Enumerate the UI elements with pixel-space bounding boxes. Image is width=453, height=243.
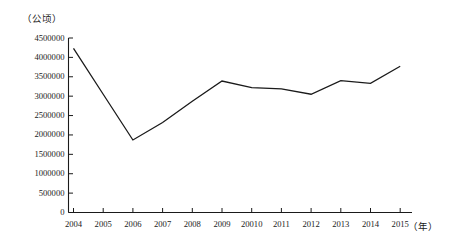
y-axis-tick-label: 3000000 <box>11 91 65 101</box>
line-chart: （公顷） 05000001000000150000020000002500000… <box>0 0 453 243</box>
y-axis-tick-label: 0 <box>11 207 65 217</box>
y-axis-tick-label: 2500000 <box>11 110 65 120</box>
x-axis-unit-label: （年） <box>408 219 438 233</box>
y-axis-tick-label: 4500000 <box>11 33 65 43</box>
axis-lines <box>69 38 413 213</box>
data-series-line <box>74 48 401 140</box>
y-axis-tick-label: 4000000 <box>11 52 65 62</box>
y-axis-tick-label: 1500000 <box>11 149 65 159</box>
y-axis-tick-label: 500000 <box>11 188 65 198</box>
y-axis-tick-label: 2000000 <box>11 129 65 139</box>
x-axis-ticks <box>74 208 401 213</box>
y-axis-tick-label: 3500000 <box>11 71 65 81</box>
y-axis-ticks <box>69 38 74 213</box>
chart-canvas <box>0 0 453 243</box>
y-axis-tick-label: 1000000 <box>11 168 65 178</box>
